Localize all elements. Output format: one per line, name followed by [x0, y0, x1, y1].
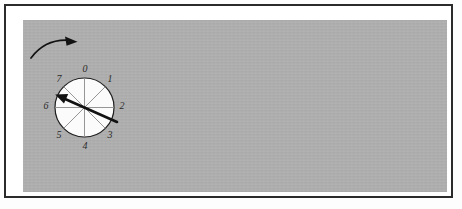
scan-noise-overlay — [23, 20, 447, 192]
figure-frame — [4, 4, 453, 198]
figure-root: 0 1 2 3 4 5 6 7 — [0, 0, 462, 209]
figure-plate — [23, 20, 447, 192]
page-bleed-text — [0, 200, 462, 209]
